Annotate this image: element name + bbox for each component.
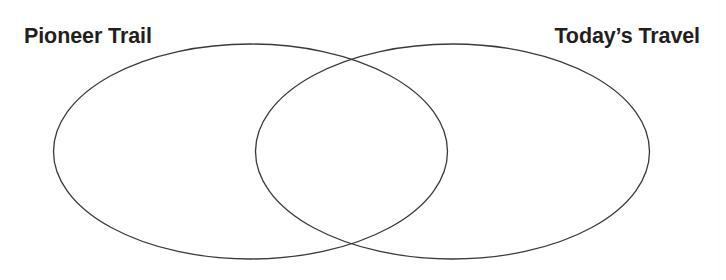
venn-circle-left[interactable] xyxy=(54,44,448,259)
venn-circle-right[interactable] xyxy=(256,44,650,259)
venn-label-left: Pioneer Trail xyxy=(24,26,152,48)
venn-diagram-page: Pioneer Trail Today’s Travel xyxy=(0,0,726,280)
venn-label-right: Today’s Travel xyxy=(554,26,700,48)
page-edge-rule xyxy=(718,0,719,280)
